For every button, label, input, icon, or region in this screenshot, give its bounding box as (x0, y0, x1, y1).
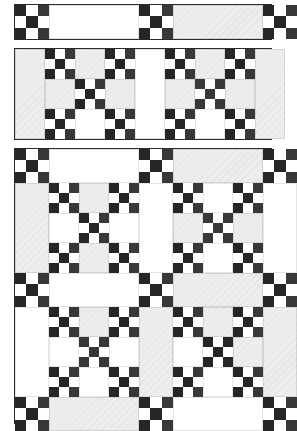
sashing-strip (173, 149, 263, 183)
sashing-strip (173, 273, 263, 307)
plain-square (195, 49, 225, 79)
nine-patch-unit (203, 213, 233, 243)
nine-patch-unit (105, 109, 135, 139)
plain-square (45, 79, 75, 109)
sashing-strip-vertical (139, 183, 173, 273)
cornerstone-nine-patch (263, 149, 297, 183)
sashing-strip-vertical (263, 183, 297, 273)
plain-square (49, 337, 79, 367)
cornerstone-nine-patch (15, 5, 49, 39)
star-block (165, 49, 255, 139)
sashing-strip-vertical (139, 307, 173, 397)
plain-square (173, 213, 203, 243)
panel-block-row (14, 48, 272, 140)
plain-square (203, 243, 233, 273)
plain-square (233, 337, 263, 367)
sashing-strip (173, 5, 263, 39)
cornerstone-nine-patch (263, 397, 297, 431)
sashing-strip-vertical (15, 307, 49, 397)
nine-patch-unit (109, 243, 139, 273)
plain-square (79, 307, 109, 337)
plain-square (79, 243, 109, 273)
nine-patch-unit (233, 307, 263, 337)
star-block (49, 307, 139, 397)
nine-patch-unit (165, 109, 195, 139)
plain-square (79, 367, 109, 397)
plain-square (105, 79, 135, 109)
cornerstone-nine-patch (139, 5, 173, 39)
plain-square (109, 337, 139, 367)
nine-patch-unit (173, 307, 203, 337)
sashing-strip (49, 273, 139, 307)
sashing-strip (49, 5, 139, 39)
cornerstone-nine-patch (15, 273, 49, 307)
plain-square (109, 213, 139, 243)
plain-square (203, 183, 233, 213)
plain-square (225, 79, 255, 109)
sashing-strip-vertical (15, 183, 49, 273)
nine-patch-unit (75, 79, 105, 109)
plain-square (75, 49, 105, 79)
sashing-strip-vertical (135, 49, 165, 139)
cornerstone-nine-patch (139, 397, 173, 431)
nine-patch-unit (225, 109, 255, 139)
sashing-strip-vertical (263, 307, 297, 397)
star-block (49, 183, 139, 273)
nine-patch-unit (109, 307, 139, 337)
plain-square (203, 367, 233, 397)
cornerstone-nine-patch (15, 149, 49, 183)
plain-square (233, 213, 263, 243)
star-block (45, 49, 135, 139)
plain-square (173, 337, 203, 367)
cornerstone-nine-patch (263, 5, 297, 39)
nine-patch-unit (233, 183, 263, 213)
panel-quilt-top (14, 148, 272, 424)
plain-square (165, 79, 195, 109)
nine-patch-unit (173, 183, 203, 213)
plain-square (49, 213, 79, 243)
plain-square (79, 183, 109, 213)
nine-patch-unit (203, 337, 233, 367)
sashing-strip-vertical (15, 49, 45, 139)
nine-patch-unit (173, 243, 203, 273)
plain-square (75, 109, 105, 139)
nine-patch-unit (49, 367, 79, 397)
nine-patch-unit (225, 49, 255, 79)
nine-patch-unit (109, 367, 139, 397)
nine-patch-unit (105, 49, 135, 79)
sashing-strip-vertical (255, 49, 285, 139)
nine-patch-unit (173, 367, 203, 397)
nine-patch-unit (49, 243, 79, 273)
cornerstone-nine-patch (139, 149, 173, 183)
cornerstone-nine-patch (263, 273, 297, 307)
nine-patch-unit (45, 109, 75, 139)
nine-patch-unit (165, 49, 195, 79)
nine-patch-unit (49, 307, 79, 337)
nine-patch-unit (233, 367, 263, 397)
nine-patch-unit (109, 183, 139, 213)
cornerstone-nine-patch (15, 397, 49, 431)
nine-patch-unit (79, 213, 109, 243)
sashing-strip (173, 397, 263, 431)
plain-square (195, 109, 225, 139)
nine-patch-unit (49, 183, 79, 213)
sashing-strip (49, 397, 139, 431)
star-block (173, 307, 263, 397)
plain-square (203, 307, 233, 337)
sashing-strip (49, 149, 139, 183)
star-block (173, 183, 263, 273)
nine-patch-unit (45, 49, 75, 79)
nine-patch-unit (233, 243, 263, 273)
nine-patch-unit (79, 337, 109, 367)
cornerstone-nine-patch (139, 273, 173, 307)
nine-patch-unit (195, 79, 225, 109)
panel-sashing-row (14, 4, 272, 40)
